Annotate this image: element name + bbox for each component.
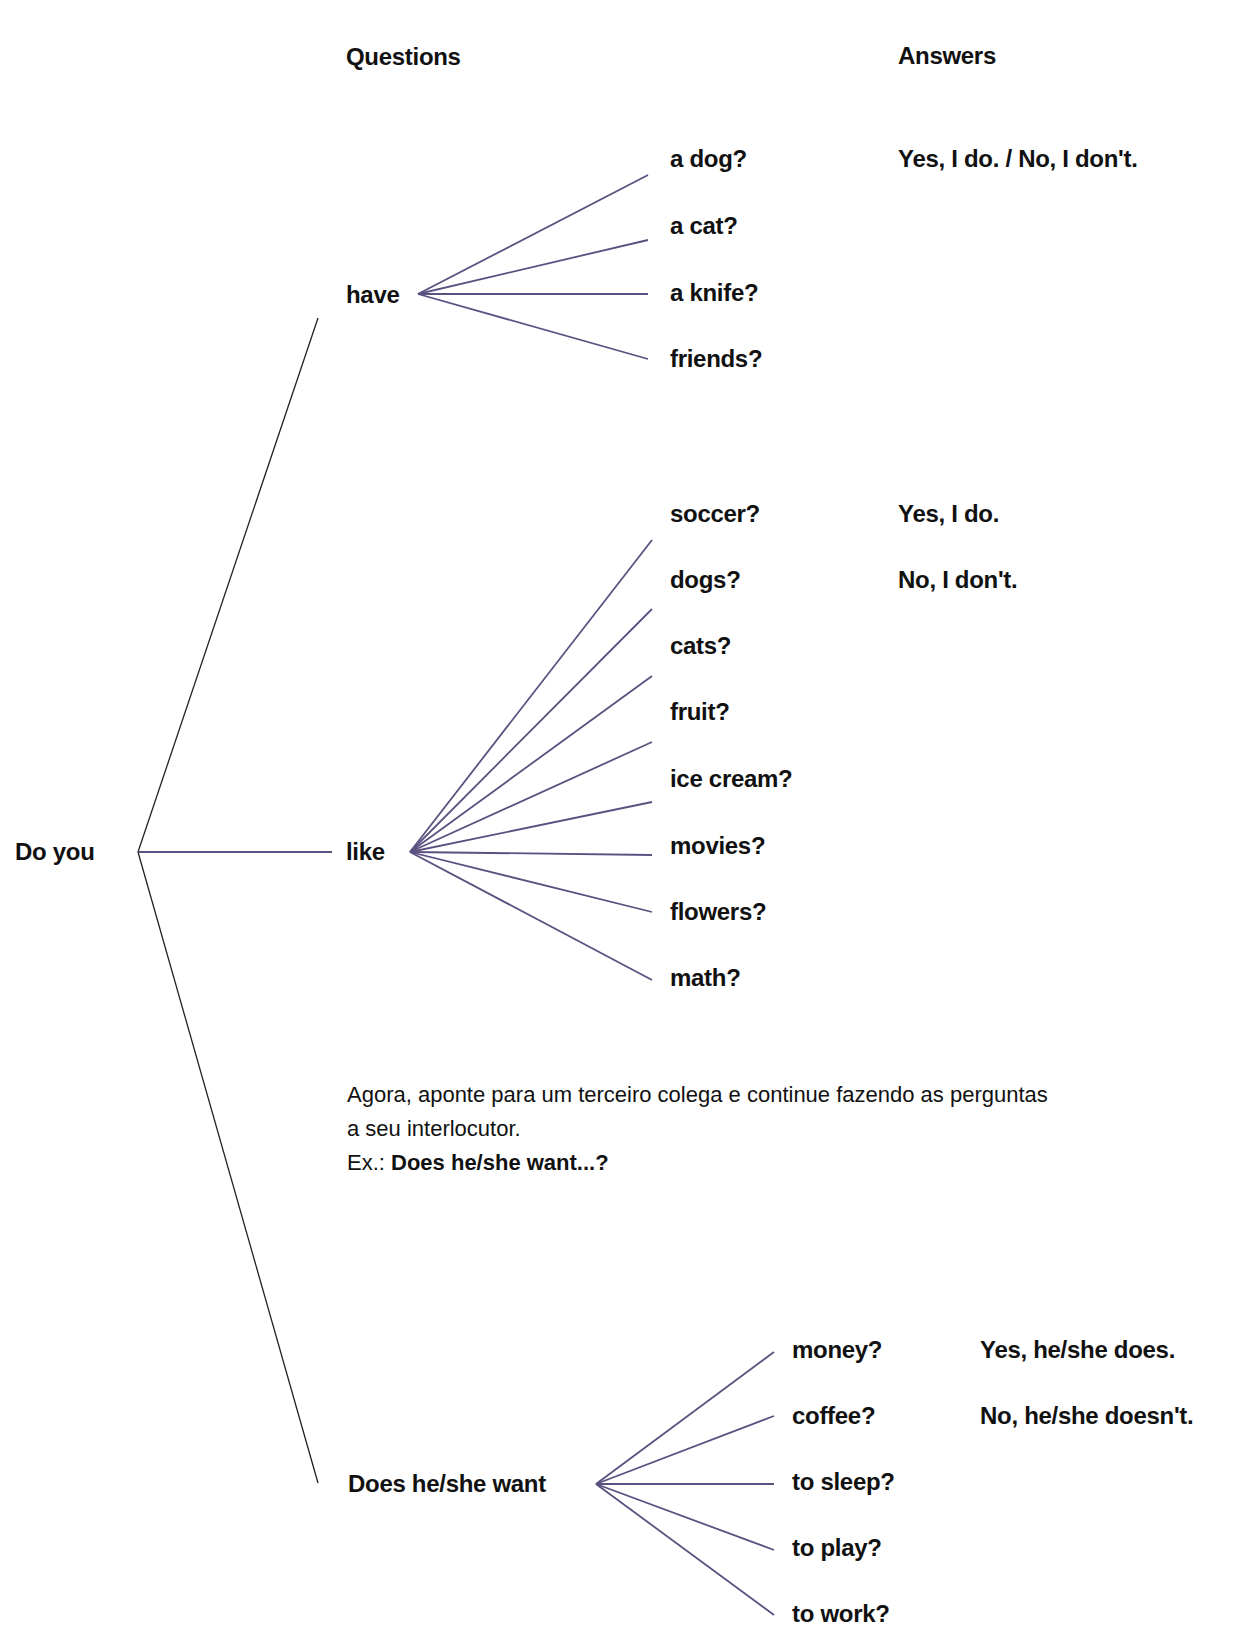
have-item: a knife? xyxy=(670,279,758,307)
have-item: a dog? xyxy=(670,145,747,173)
want-item: coffee? xyxy=(792,1402,875,1430)
want-item: to play? xyxy=(792,1534,882,1562)
node-like: like xyxy=(346,838,385,866)
node-does-he-she-want: Does he/she want xyxy=(348,1470,546,1498)
like-item: fruit? xyxy=(670,698,730,726)
want-branch-lines xyxy=(596,1352,774,1615)
instruction-paragraph: Agora, aponte para um terceiro colega e … xyxy=(347,1078,1227,1180)
have-item: friends? xyxy=(670,345,762,373)
root-do-you: Do you xyxy=(15,838,95,866)
trunk-lines xyxy=(138,318,332,1483)
questions-header: Questions xyxy=(346,43,461,71)
want-item: money? xyxy=(792,1336,882,1364)
like-answer-yes: Yes, I do. xyxy=(898,500,999,528)
example-text: Does he/she want...? xyxy=(391,1150,609,1175)
answers-header: Answers xyxy=(898,42,996,70)
want-answer-no: No, he/she doesn't. xyxy=(980,1402,1193,1430)
have-item: a cat? xyxy=(670,212,738,240)
node-have: have xyxy=(346,281,400,309)
like-answer-no: No, I don't. xyxy=(898,566,1017,594)
example-prefix: Ex.: xyxy=(347,1150,385,1175)
like-branch-lines xyxy=(410,540,652,980)
like-item: dogs? xyxy=(670,566,741,594)
want-item: to sleep? xyxy=(792,1468,895,1496)
like-item: cats? xyxy=(670,632,731,660)
instruction-line-2: a seu interlocutor. xyxy=(347,1112,1227,1146)
like-item: movies? xyxy=(670,832,765,860)
want-item: to work? xyxy=(792,1600,890,1628)
want-answer-yes: Yes, he/she does. xyxy=(980,1336,1175,1364)
instruction-example: Ex.: Does he/she want...? xyxy=(347,1146,1227,1180)
have-answer: Yes, I do. / No, I don't. xyxy=(898,145,1138,173)
like-item: soccer? xyxy=(670,500,760,528)
like-item: ice cream? xyxy=(670,765,792,793)
instruction-line-1: Agora, aponte para um terceiro colega e … xyxy=(347,1078,1227,1112)
have-branch-lines xyxy=(418,175,648,359)
like-item: flowers? xyxy=(670,898,766,926)
like-item: math? xyxy=(670,964,741,992)
